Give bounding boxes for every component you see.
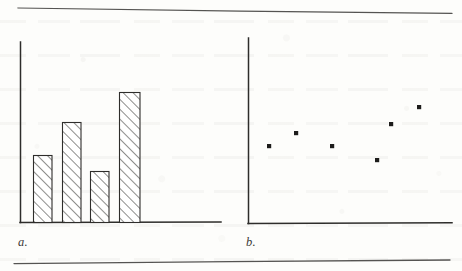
bar-2 bbox=[63, 123, 82, 223]
bar-3 bbox=[91, 172, 110, 223]
data-point-3 bbox=[330, 144, 334, 148]
data-point-1 bbox=[267, 144, 271, 148]
panel-b-data-points bbox=[267, 105, 421, 162]
panel-a-label: a. bbox=[18, 236, 28, 249]
figure-root: a. b. bbox=[0, 0, 462, 271]
panel-b-scatter-plot bbox=[231, 0, 462, 271]
panel-a-bar-chart bbox=[0, 0, 231, 271]
data-point-4 bbox=[375, 158, 379, 162]
bar-4 bbox=[120, 93, 141, 223]
panel-a-bars bbox=[34, 93, 141, 223]
data-point-6 bbox=[417, 105, 421, 109]
panel-b-label: b. bbox=[246, 236, 256, 249]
data-point-2 bbox=[294, 131, 298, 135]
panel-b-axes bbox=[248, 38, 452, 224]
data-point-5 bbox=[389, 122, 393, 126]
bar-1 bbox=[34, 156, 53, 223]
